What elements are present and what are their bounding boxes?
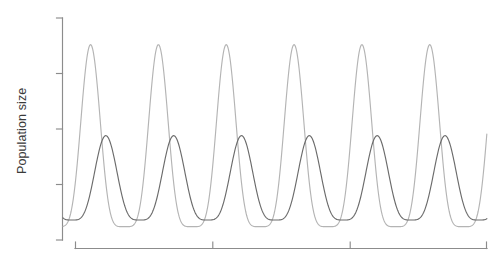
y-axis-ticks — [57, 18, 63, 240]
y-axis-label: Population size — [15, 88, 29, 174]
chart-series-group — [63, 45, 487, 227]
x-axis-ticks — [76, 242, 487, 249]
population-cycles-chart: Population size — [0, 0, 502, 273]
series-line-prey — [63, 45, 487, 227]
chart-figure: Population size — [0, 0, 502, 273]
